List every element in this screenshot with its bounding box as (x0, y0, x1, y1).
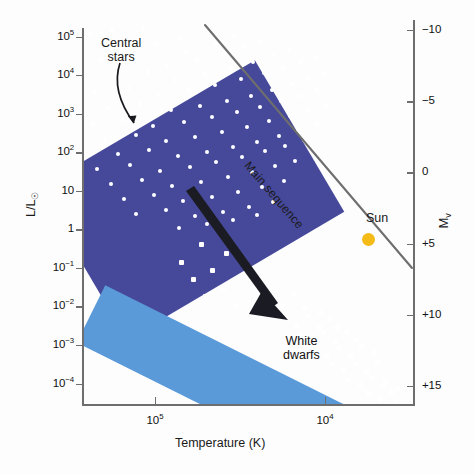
y-tick-label-1000: 103 (30, 107, 74, 119)
star-marker (113, 75, 117, 79)
m-tick-3 (407, 244, 414, 245)
star-marker (317, 325, 322, 330)
star-marker (358, 382, 363, 387)
star-marker (395, 386, 400, 391)
star-marker (315, 88, 319, 92)
star-marker (210, 268, 215, 273)
magnitude-axis-title: Mv (436, 213, 454, 228)
star-marker (280, 303, 285, 308)
star-marker (348, 354, 353, 359)
y-tick-0.1 (76, 268, 83, 269)
star-marker (214, 42, 218, 46)
m-tick-0 (407, 30, 414, 31)
m-tick-1 (407, 101, 414, 102)
star-marker (291, 292, 296, 297)
star-marker (294, 323, 299, 328)
star-marker (302, 306, 307, 311)
star-marker (106, 106, 110, 110)
star-marker (329, 362, 334, 367)
star-marker (296, 129, 300, 133)
m-tick-2 (407, 172, 414, 173)
star-marker (359, 344, 364, 349)
star-marker (184, 49, 188, 53)
x-tick-label-100000: 105 (133, 414, 177, 426)
star-marker (302, 138, 306, 142)
star-marker (297, 94, 301, 98)
star-marker (259, 39, 263, 43)
m-tick-label-1: −5 (422, 94, 435, 106)
star-marker (262, 71, 266, 75)
star-marker (377, 397, 382, 402)
star-marker (110, 28, 114, 32)
star-marker (335, 325, 340, 330)
x-axis-line (82, 404, 414, 406)
star-marker (232, 33, 236, 37)
star-marker (157, 93, 161, 97)
m-tick-label-2: 0 (422, 165, 428, 177)
star-marker (202, 26, 206, 30)
star-marker (199, 242, 204, 247)
star-marker (221, 286, 226, 291)
y-tick-label-0.01: 10−2 (30, 299, 74, 311)
star-marker (299, 60, 303, 64)
star-marker (287, 48, 291, 52)
y-tick-label-100000: 105 (30, 30, 74, 42)
star-marker (195, 57, 199, 61)
y-tick-10000 (76, 75, 83, 76)
star-marker (127, 86, 131, 90)
y-tick-1 (76, 229, 83, 230)
white-dwarfs-label-line1: White (283, 334, 320, 348)
m-tick-label-0: −10 (422, 23, 441, 35)
star-marker (173, 78, 177, 82)
white-dwarf-region (83, 285, 414, 405)
star-marker (366, 391, 371, 396)
star-marker (279, 99, 283, 103)
star-marker (364, 369, 369, 374)
star-marker (306, 108, 310, 112)
star-marker (229, 66, 233, 70)
white-dwarfs-label: White dwarfs (283, 334, 320, 362)
m-tick-4 (407, 315, 414, 316)
star-marker (103, 137, 107, 141)
m-tick-label-4: +10 (422, 308, 441, 320)
star-marker (307, 77, 311, 81)
y-tick-0.0001 (76, 384, 83, 385)
y-tick-0.001 (76, 345, 83, 346)
sun-marker (362, 233, 375, 246)
y-axis-title-text: L/L (24, 200, 38, 217)
star-marker (370, 376, 375, 381)
m-tick-5 (407, 386, 414, 387)
star-marker (165, 64, 169, 68)
star-marker (179, 260, 184, 265)
star-marker (249, 276, 254, 281)
star-marker (314, 55, 318, 59)
star-marker (306, 314, 311, 319)
star-marker (91, 121, 95, 125)
star-marker (203, 294, 208, 299)
star-marker (187, 88, 191, 92)
star-marker (353, 338, 358, 343)
m-tick-label-5: +15 (422, 379, 441, 391)
star-marker (238, 258, 243, 263)
star-marker (321, 330, 326, 335)
star-marker (341, 368, 346, 373)
y-tick-1000 (76, 114, 83, 115)
star-marker (141, 25, 145, 29)
star-marker (269, 295, 274, 300)
central-stars-label-line2: stars (101, 50, 141, 64)
star-marker (389, 390, 394, 395)
star-marker (372, 350, 377, 355)
star-marker (243, 45, 247, 49)
y-tick-0.01 (76, 306, 83, 307)
magnitude-axis-line (413, 20, 415, 406)
star-marker (323, 71, 327, 75)
star-marker (290, 82, 294, 86)
star-marker (146, 70, 150, 74)
y-axis-title-sub: ☉ (30, 192, 40, 200)
hr-diagram-figure: Sun Main sequence Central stars White dw… (0, 0, 475, 474)
star-marker (288, 114, 292, 118)
star-marker (315, 123, 319, 127)
y-tick-label-0.0001: 10−4 (30, 377, 74, 389)
y-tick-label-0.001: 10−3 (30, 338, 74, 350)
star-marker (324, 103, 328, 107)
